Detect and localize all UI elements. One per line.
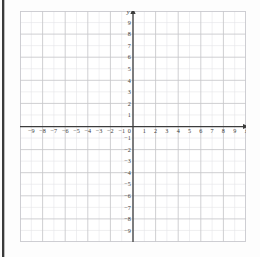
y-tick-label: 7: [128, 42, 131, 49]
x-tick-label: −1: [118, 127, 125, 134]
y-tick-label: −8: [124, 215, 131, 222]
y-tick-label: −2: [124, 146, 131, 153]
x-tick-label: 1: [143, 127, 146, 134]
x-axis-name-label: x: [244, 127, 246, 134]
coordinate-grid-figure: −9−8−7−6−5−4−3−2−1123456789 987654321−1−…: [20, 11, 246, 242]
y-tick-label: −1: [124, 134, 131, 141]
y-tick-label: 6: [128, 53, 131, 60]
x-tick-label: 5: [188, 127, 191, 134]
y-tick-label: 9: [128, 19, 131, 26]
y-tick-label: 1: [128, 111, 131, 118]
page-canvas: −9−8−7−6−5−4−3−2−1123456789 987654321−1−…: [0, 0, 260, 257]
y-tick-label: −9: [124, 227, 131, 234]
x-tick-label: 9: [233, 127, 236, 134]
x-tick-label: −7: [51, 127, 58, 134]
x-tick-label: 6: [199, 127, 202, 134]
x-tick-label: 7: [211, 127, 214, 134]
y-tick-label: 2: [128, 100, 131, 107]
x-tick-label: −5: [73, 127, 80, 134]
x-tick-label: −3: [96, 127, 103, 134]
x-tick-label: 2: [154, 127, 157, 134]
x-tick-label: −2: [107, 127, 114, 134]
page-binding-shadow: [4, 0, 5, 257]
x-tick-label: −4: [85, 127, 92, 134]
coordinate-grid-svg: −9−8−7−6−5−4−3−2−1123456789 987654321−1−…: [20, 11, 246, 242]
x-tick-label: −6: [62, 127, 69, 134]
y-axis-name-label: y: [126, 11, 130, 15]
y-tick-label: 8: [128, 30, 131, 37]
x-tick-label: 4: [177, 127, 180, 134]
y-tick-label: −6: [124, 192, 131, 199]
x-tick-label: 3: [165, 127, 168, 134]
origin-zero-label: 0: [128, 127, 131, 134]
x-tick-label: −8: [39, 127, 46, 134]
x-tick-label: 8: [222, 127, 225, 134]
x-tick-label: −9: [28, 127, 35, 134]
y-tick-label: −4: [124, 169, 131, 176]
y-tick-label: 3: [128, 88, 131, 95]
y-tick-label: 5: [128, 65, 131, 72]
y-tick-label: −7: [124, 204, 131, 211]
y-tick-label: −5: [124, 180, 131, 187]
origin-label: 0: [128, 127, 131, 134]
y-tick-label: 4: [128, 77, 131, 84]
y-tick-label: −3: [124, 157, 131, 164]
